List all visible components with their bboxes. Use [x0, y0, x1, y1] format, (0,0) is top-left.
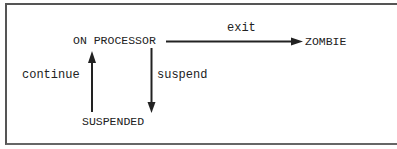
- transition-label-suspend: suspend: [157, 69, 207, 81]
- state-zombie: ZOMBIE: [305, 36, 346, 48]
- transition-label-continue: continue: [22, 69, 80, 81]
- state-on-processor: ON PROCESSOR: [73, 35, 156, 47]
- exit-arrow: [166, 38, 303, 46]
- transition-label-exit: exit: [227, 22, 256, 34]
- suspend-arrow: [148, 48, 156, 113]
- continue-arrow: [88, 51, 96, 112]
- state-suspended: SUSPENDED: [82, 116, 144, 128]
